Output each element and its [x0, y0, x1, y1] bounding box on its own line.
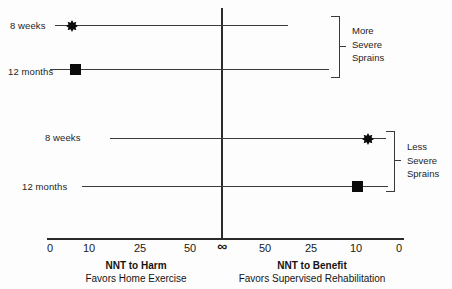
- bracket-more-severe-line1: More: [352, 24, 384, 38]
- bracket-more-severe-nub: [339, 46, 346, 47]
- bracket-more-severe-line3: Sprains: [352, 51, 384, 65]
- bracket-more-severe-line2: Severe: [352, 38, 384, 52]
- ci-line-row3: [110, 138, 386, 139]
- point-marker-row4: [352, 181, 363, 192]
- caption-nnt-to-harm: NNT to Harm: [105, 260, 166, 271]
- tick-label-benefit-0: 0: [396, 242, 402, 254]
- bracket-label-less-severe: Less Severe Sprains: [407, 140, 439, 181]
- tick-label-benefit-10: 10: [350, 242, 362, 254]
- bracket-less-severe: [386, 131, 395, 192]
- ci-line-row4: [82, 186, 388, 187]
- bracket-less-severe-nub: [394, 160, 401, 161]
- tick-label-infinity: ∞: [217, 238, 226, 254]
- ci-line-row1: [55, 25, 288, 26]
- caption-nnt-to-benefit: NNT to Benefit: [277, 260, 346, 271]
- row-label-8-weeks-severe: 8 weeks: [10, 20, 46, 31]
- ci-line-row2: [50, 69, 329, 70]
- bracket-less-severe-line2: Severe: [407, 154, 439, 168]
- tick-label-harm-10: 10: [83, 242, 95, 254]
- tick-label-benefit-25: 25: [305, 242, 317, 254]
- reference-line-infinity: [221, 8, 223, 240]
- tick-label-harm-0: 0: [47, 242, 53, 254]
- caption-favors-supervised-rehab: Favors Supervised Rehabilitation: [239, 273, 386, 284]
- point-marker-row1: [66, 20, 78, 32]
- tick-label-benefit-50: 50: [259, 242, 271, 254]
- row-label-12-months-severe: 12 months: [8, 66, 53, 77]
- point-marker-row2: [70, 64, 81, 75]
- tick-label-harm-25: 25: [134, 242, 146, 254]
- tick-label-harm-50: 50: [184, 242, 196, 254]
- row-label-12-months-less: 12 months: [22, 181, 67, 192]
- bracket-label-more-severe: More Severe Sprains: [352, 24, 384, 65]
- row-label-8-weeks-less: 8 weeks: [45, 132, 81, 143]
- point-marker-row3: [362, 133, 374, 145]
- caption-favors-home-exercise: Favors Home Exercise: [85, 273, 186, 284]
- bracket-less-severe-line1: Less: [407, 140, 439, 154]
- forest-plot-figure: 8 weeks 12 months More Severe Sprains 8 …: [0, 0, 452, 289]
- bracket-less-severe-line3: Sprains: [407, 167, 439, 181]
